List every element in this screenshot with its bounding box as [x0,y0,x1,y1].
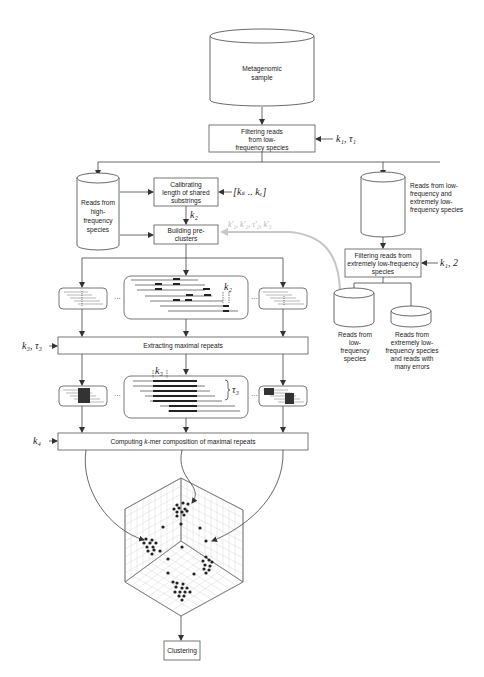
param-k1-2: k₁, 2 [440,257,458,268]
high-freq-label-2: high- [91,208,106,216]
building-preclusters-box: Building pre- clusters [154,225,218,244]
param-k3-window: k₃ [155,365,163,376]
filter-low-frequency-box: Filtering reads from low- frequency spec… [209,125,315,152]
low-and-extreme-reads-node: Reads from low- frequency and extremely … [361,172,464,237]
high-frequency-reads-node: Reads from high- frequency species [77,173,119,250]
ext-reads-label-3: frequency species [385,347,439,355]
low-reads-label-4: species [344,355,367,363]
computing-label: Computing k-mer composition of maximal r… [110,438,256,446]
calibrating-label-1: Calibrating [170,181,202,189]
filter-ext-label-3: species [372,268,395,276]
low-reads-label-1: Reads from [338,331,373,338]
kmer-space-cube [125,478,243,616]
ext-reads-label-1: Reads from [395,331,430,338]
sample-label-1: Metagenomic [242,65,282,73]
precluster-left [59,288,107,309]
low-reads-label-3: frequency [341,347,371,355]
low-reads-label-2: low- [349,339,361,346]
clustering-box: Clustering [164,641,200,660]
param-k2: k₂ [190,209,198,220]
ext-reads-label-4: and reads with [391,355,434,362]
repeats-right [259,386,307,406]
low-frequency-reads-node: Reads from low- frequency species [334,288,374,363]
pipeline-diagram: Metagenomic sample Filtering reads from … [0,0,484,677]
low-ext-label-3: extremely low- [410,198,453,206]
extracting-label: Extracting maximal repeats [143,342,223,350]
ellipsis-4: ··· [251,392,258,399]
extreme-reads-node: Reads from extremely low- frequency spec… [385,306,439,371]
filter-low-label-2: from low- [248,136,275,143]
precluster-right [259,288,307,309]
ext-reads-label-2: extremely low- [391,339,434,347]
computing-kmer-composition-box: Computing k-mer composition of maximal r… [58,433,308,450]
ellipsis-3: ··· [114,392,121,399]
cluster-bottom [173,581,191,601]
param-tau3-bracket: τ₃ [232,384,240,395]
extracting-maximal-repeats-box: Extracting maximal repeats [58,337,308,354]
building-label-1: Building pre- [167,227,204,235]
param-k2-window: k₂ [224,281,232,292]
low-ext-label-4: frequency species [410,206,464,214]
precluster-center: k₂ [124,276,248,319]
sample-label-2: sample [251,74,273,82]
building-label-2: clusters [175,235,198,242]
high-freq-label-1: Reads from [81,199,116,206]
calibrating-label-2: length of shared [162,189,210,197]
param-k-range: [kₛ .. kₑ] [233,186,266,197]
filter-ext-label-2: extremely low-frequency [347,260,419,268]
filter-extreme-box: Filtering reads from extremely low-frequ… [345,249,421,277]
low-ext-label-2: frequency and [410,190,452,198]
clustering-label: Clustering [167,647,197,655]
filter-low-label-1: Filtering reads [241,128,283,136]
calibrating-box: Calibrating length of shared substrings [154,178,218,206]
calibrating-label-3: substrings [171,197,202,205]
filter-low-label-3: frequency species [235,144,289,152]
param-feedback: k′₁, k′₂, τ′₂, k′₃ [228,220,272,229]
param-k1-tau1: k₁, τ₁ [336,133,356,144]
ellipsis-1: ··· [114,295,121,302]
filter-ext-label-1: Filtering reads from [355,252,412,260]
ext-reads-label-5: many errors [394,363,430,371]
param-k3-tau3: k₃, τ₃ [22,340,42,351]
low-ext-label-1: Reads from low- [410,182,458,189]
metagenomic-sample-node: Metagenomic sample [210,29,314,106]
high-freq-label-4: species [87,226,110,234]
ellipsis-2: ··· [251,295,258,302]
param-k4: k₄ [33,435,41,446]
high-freq-label-3: frequency [84,217,114,225]
repeats-left [59,386,107,406]
